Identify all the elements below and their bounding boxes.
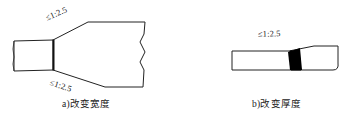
narrow-plate-outline — [14, 40, 53, 71]
plate-bottom-edge — [232, 46, 338, 70]
wide-plate-outline — [53, 22, 145, 87]
weld-wedge-upper-fill — [288, 48, 302, 70]
panel-b-drawing — [232, 46, 338, 70]
panel-a-drawing — [13, 22, 145, 87]
figure-container: ≤1:2.5 ≤1:2.5 ≤1:2.5 a)改变宽度 b)改变厚度 — [0, 0, 361, 120]
caption-panel-b: b)改变厚度 — [252, 100, 301, 110]
caption-panel-a: a)改变宽度 — [62, 100, 111, 110]
slope-label-panel-b: ≤1:2.5 — [258, 29, 281, 38]
